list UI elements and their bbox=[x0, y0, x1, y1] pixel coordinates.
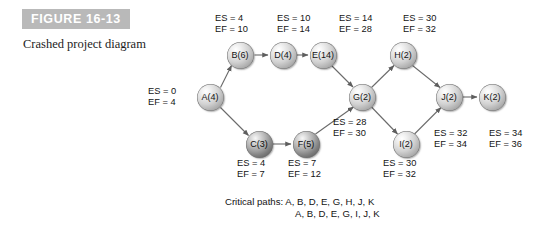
node-D-label: D(4) bbox=[274, 50, 292, 60]
node-J-label: J(2) bbox=[441, 92, 457, 102]
node-D[interactable]: D(4) bbox=[270, 42, 297, 69]
es-value-A: ES = 0 bbox=[148, 86, 176, 97]
critical-paths-line-2: A, B, D, E, G, I, J, K bbox=[225, 208, 380, 220]
node-G[interactable]: G(2) bbox=[349, 84, 376, 111]
ef-value-D: EF = 14 bbox=[277, 24, 310, 35]
edge-G-I bbox=[372, 107, 398, 134]
edge-G-H bbox=[372, 66, 395, 88]
node-C-label: C(3) bbox=[250, 139, 268, 149]
es-value-G: ES = 28 bbox=[333, 117, 366, 128]
es-value-C: ES = 4 bbox=[237, 158, 265, 169]
es-value-I: ES = 30 bbox=[383, 158, 416, 169]
es-value-D: ES = 10 bbox=[277, 13, 310, 24]
es-value-E: ES = 14 bbox=[339, 13, 372, 24]
edge-E-G bbox=[332, 66, 354, 88]
ef-value-K: EF = 36 bbox=[489, 139, 522, 150]
es-value-F: ES = 7 bbox=[288, 158, 321, 169]
ef-value-F: EF = 12 bbox=[288, 169, 321, 180]
ef-value-B: EF = 10 bbox=[215, 24, 248, 35]
critical-paths-line-1: Critical paths: A, B, D, E, G, H, J, K bbox=[225, 196, 374, 207]
node-I[interactable]: I(2) bbox=[393, 131, 420, 158]
ef-value-C: EF = 7 bbox=[237, 169, 265, 180]
es-ef-label-G: ES = 28 EF = 30 bbox=[333, 117, 366, 139]
critical-paths-note: Critical paths: A, B, D, E, G, H, J, K A… bbox=[225, 196, 380, 219]
es-ef-label-C: ES = 4 EF = 7 bbox=[237, 158, 265, 180]
ef-value-G: EF = 30 bbox=[333, 128, 366, 139]
es-value-B: ES = 4 bbox=[215, 13, 248, 24]
node-E[interactable]: E(14) bbox=[310, 42, 337, 69]
node-H[interactable]: H(2) bbox=[390, 42, 417, 69]
es-ef-label-B: ES = 4 EF = 10 bbox=[215, 13, 248, 35]
es-value-J: ES = 32 bbox=[434, 128, 467, 139]
node-J[interactable]: J(2) bbox=[436, 84, 463, 111]
es-ef-label-E: ES = 14 EF = 28 bbox=[339, 13, 372, 35]
node-K-label: K(2) bbox=[483, 92, 500, 102]
ef-value-I: EF = 32 bbox=[383, 169, 416, 180]
node-G-label: G(2) bbox=[353, 92, 371, 102]
ef-value-A: EF = 4 bbox=[148, 97, 176, 108]
edge-A-B bbox=[221, 66, 232, 88]
es-value-K: ES = 34 bbox=[489, 128, 522, 139]
node-B-label: B(6) bbox=[231, 50, 248, 60]
edge-H-J bbox=[413, 66, 441, 88]
node-F[interactable]: F(5) bbox=[293, 131, 320, 158]
ef-value-E: EF = 28 bbox=[339, 24, 372, 35]
project-network-diagram: A(4) B(6) D(4) E(14) C(3) F(5) G(2) H(2)… bbox=[0, 0, 549, 233]
node-H-label: H(2) bbox=[394, 50, 412, 60]
es-ef-label-H: ES = 30 EF = 32 bbox=[403, 13, 436, 35]
es-value-H: ES = 30 bbox=[403, 13, 436, 24]
node-A-label: A(4) bbox=[201, 92, 218, 102]
node-I-label: I(2) bbox=[399, 139, 413, 149]
edge-A-C bbox=[221, 108, 249, 136]
node-K[interactable]: K(2) bbox=[479, 84, 506, 111]
es-ef-label-D: ES = 10 EF = 14 bbox=[277, 13, 310, 35]
ef-value-H: EF = 32 bbox=[403, 24, 436, 35]
node-F-label: F(5) bbox=[298, 139, 315, 149]
es-ef-label-F: ES = 7 EF = 12 bbox=[288, 158, 321, 180]
es-ef-label-J: ES = 32 EF = 34 bbox=[434, 128, 467, 150]
ef-value-J: EF = 34 bbox=[434, 139, 467, 150]
es-ef-label-A: ES = 0 EF = 4 bbox=[148, 86, 176, 108]
node-C[interactable]: C(3) bbox=[246, 131, 273, 158]
node-E-label: E(14) bbox=[312, 50, 334, 60]
es-ef-label-K: ES = 34 EF = 36 bbox=[489, 128, 522, 150]
node-B[interactable]: B(6) bbox=[227, 42, 254, 69]
es-ef-label-I: ES = 30 EF = 32 bbox=[383, 158, 416, 180]
node-A[interactable]: A(4) bbox=[197, 84, 224, 111]
